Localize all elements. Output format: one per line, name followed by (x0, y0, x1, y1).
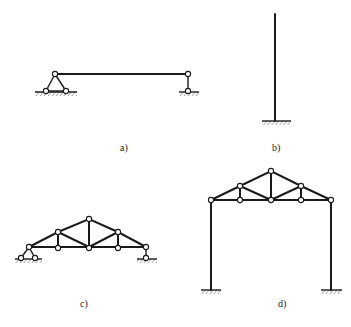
ground-hatch (262, 121, 291, 125)
pin-joint (185, 88, 190, 93)
panel-d-frame: d) (201, 168, 342, 310)
top-chord (29, 219, 146, 247)
panel-label-b: b) (272, 142, 280, 154)
panel-label-a: a) (120, 142, 128, 154)
panel-label-d: d) (278, 298, 286, 310)
panel-label-c: c) (80, 298, 88, 310)
pin-joint (63, 88, 68, 93)
panel-b-cantilever: b) (262, 14, 291, 154)
pin-joint (185, 71, 190, 76)
ground-hatch (35, 92, 77, 96)
pin-joint (43, 88, 48, 93)
structural-diagram: a) b) (0, 0, 351, 327)
pin-joint (52, 71, 57, 76)
panel-a-beam: a) (35, 71, 199, 154)
panel-c-truss: c) (15, 216, 157, 310)
